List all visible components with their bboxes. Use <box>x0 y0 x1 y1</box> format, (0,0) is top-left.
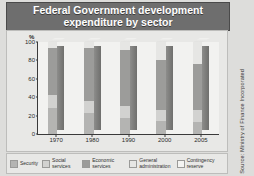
bar-segment[interactable] <box>156 42 166 59</box>
bar-front-face <box>120 42 130 134</box>
chart-figure: Federal Government development expenditu… <box>0 0 254 176</box>
bar-side-face <box>130 46 137 130</box>
y-axis-tick-label: 60 <box>28 76 35 82</box>
x-axis-tick-label: 1990 <box>122 137 135 143</box>
bar-side-face <box>166 46 173 130</box>
bar-segment[interactable] <box>48 108 58 134</box>
bar-side-face <box>202 46 209 130</box>
legend-swatch <box>177 160 185 168</box>
x-axis-tick-label: 2005 <box>194 137 207 143</box>
bar-column[interactable] <box>84 42 101 134</box>
legend-item[interactable]: General administration <box>129 158 172 169</box>
bar-column[interactable] <box>193 42 210 134</box>
bar-segment[interactable] <box>156 121 166 134</box>
legend-item-label: Social services <box>52 158 78 169</box>
plot-panel: % 100806040200 19701980199020002005 <box>6 30 228 152</box>
x-axis-tick-label: 1980 <box>86 137 99 143</box>
bar-front-face <box>193 42 203 134</box>
bar-segment[interactable] <box>48 95 58 108</box>
y-axis-tick-label: 40 <box>28 94 35 100</box>
bar-segment[interactable] <box>120 50 130 105</box>
bar-top-face <box>84 38 101 42</box>
chart-legend: SecuritySocial servicesEconomic services… <box>6 153 228 174</box>
bar-segment[interactable] <box>120 118 130 134</box>
bar-segment[interactable] <box>84 113 94 134</box>
bar-front-face <box>48 42 58 134</box>
bar-segment[interactable] <box>193 64 203 110</box>
legend-item[interactable]: Contingency reserve <box>177 158 220 169</box>
bar-side-face <box>57 46 64 130</box>
x-axis-tick-label: 2000 <box>158 137 171 143</box>
page-title: Federal Government development expenditu… <box>7 5 229 28</box>
bar-front-face <box>156 42 166 134</box>
legend-item-label: Security <box>20 161 38 167</box>
bar-segment[interactable] <box>120 106 130 119</box>
x-axis-tick-mark <box>128 134 129 137</box>
bar-top-face <box>156 38 173 42</box>
y-axis-tick-label: 20 <box>28 113 35 119</box>
legend-swatch <box>129 160 137 168</box>
bar-segment[interactable] <box>193 42 203 64</box>
bar-series-group <box>38 42 219 134</box>
bar-segment[interactable] <box>156 60 166 111</box>
y-axis-tick-label: 0 <box>32 131 35 137</box>
legend-item[interactable]: Social services <box>42 158 78 169</box>
legend-item-label: Economic services <box>92 158 125 169</box>
bar-top-face <box>193 38 210 42</box>
bar-segment[interactable] <box>84 101 94 113</box>
bar-segment[interactable] <box>193 122 203 134</box>
y-axis-tick-label: 100 <box>25 39 35 45</box>
legend-item[interactable]: Economic services <box>82 158 125 169</box>
legend-item-label: General administration <box>139 158 172 169</box>
legend-item[interactable]: Security <box>10 160 38 168</box>
x-axis-tick-mark <box>200 134 201 137</box>
bar-segment[interactable] <box>84 48 94 100</box>
legend-swatch <box>82 160 90 168</box>
bar-segment[interactable] <box>193 110 203 122</box>
x-axis-tick-mark <box>164 134 165 137</box>
bar-top-face <box>48 38 65 42</box>
source-credit: Source: Ministry of Finance Incorporated <box>231 30 253 174</box>
legend-item-label: Contingency reserve <box>187 158 220 169</box>
source-credit-text: Source: Ministry of Finance Incorporated <box>239 69 245 174</box>
bar-segment[interactable] <box>48 48 58 96</box>
x-axis-tick-mark <box>56 134 57 137</box>
bar-column[interactable] <box>120 42 137 134</box>
bar-column[interactable] <box>156 42 173 134</box>
bar-column[interactable] <box>48 42 65 134</box>
x-axis-tick-label: 1970 <box>49 137 62 143</box>
legend-swatch <box>10 160 18 168</box>
chart-title-bar: Federal Government development expenditu… <box>6 2 230 31</box>
bar-side-face <box>94 46 101 130</box>
plot-area: 100806040200 19701980199020002005 <box>37 42 219 135</box>
x-axis-tick-mark <box>92 134 93 137</box>
bar-segment[interactable] <box>156 110 166 121</box>
legend-swatch <box>42 160 50 168</box>
bar-segment[interactable] <box>120 42 130 50</box>
y-axis-tick-label: 80 <box>28 57 35 63</box>
bar-top-face <box>120 38 137 42</box>
bar-front-face <box>84 42 94 134</box>
